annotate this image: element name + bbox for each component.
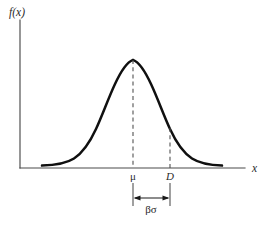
y-axis-label: f(x)	[9, 6, 25, 19]
x-axis-label: x	[251, 162, 258, 174]
arrow-left-icon	[134, 196, 141, 201]
normal-distribution-figure: f(x) x μ D βσ	[0, 0, 273, 232]
d-tick-label: D	[165, 170, 174, 182]
mu-tick-label: μ	[130, 170, 136, 182]
density-curve	[42, 60, 222, 166]
figure-canvas: f(x) x μ D βσ	[0, 0, 273, 232]
arrow-right-icon	[163, 196, 170, 201]
beta-sigma-label: βσ	[145, 203, 157, 215]
